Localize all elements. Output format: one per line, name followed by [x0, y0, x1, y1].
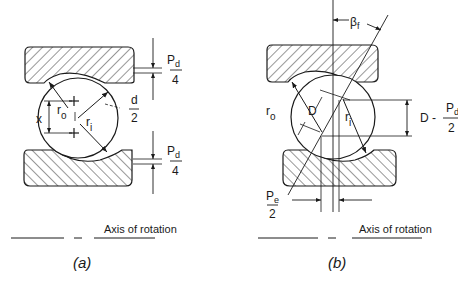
D-label: D [308, 104, 317, 118]
figure-a [11, 38, 182, 238]
dim-right-numerator: Pd [446, 101, 458, 117]
dim-D-minus-label: D - [420, 111, 436, 125]
pd-bottom-label: Pd [167, 144, 180, 160]
pe-label: Pe [266, 189, 279, 205]
axis-of-rotation-label-b: Axis of rotation [359, 223, 432, 235]
pd-top-denominator: 4 [172, 73, 179, 87]
pd-top-label: Pd [167, 53, 180, 69]
d-half-numerator: d [131, 93, 138, 107]
pd-bottom-denominator: 4 [172, 164, 179, 178]
ro-label-b: ro [266, 104, 276, 122]
dim-right-denominator: 2 [448, 121, 455, 135]
caption-a: (a) [73, 254, 91, 271]
beta-f-label: βf [350, 15, 360, 31]
axis-of-rotation-label-a: Axis of rotation [104, 223, 177, 235]
d-half-denominator: 2 [131, 111, 138, 125]
caption-b: (b) [328, 254, 346, 271]
x-label: x [36, 112, 42, 126]
pe-denominator: 2 [269, 207, 276, 221]
ball-bearing-diagram: Pd 4 d 2 x ro ri Pd 4 Axis of rotation (… [0, 0, 458, 285]
